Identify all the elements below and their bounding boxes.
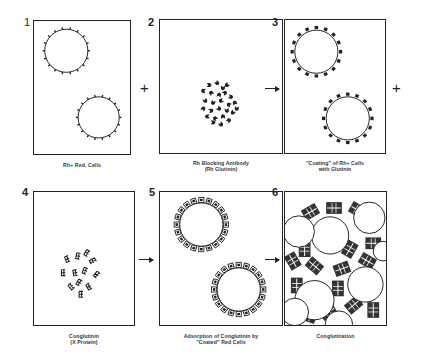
caption-panel-1: Rh+ Red, Cells xyxy=(33,162,131,168)
caption-line: Conglutination xyxy=(284,333,387,339)
panel-number-1: 1 xyxy=(24,16,30,28)
caption-panel-4: Conglutinin (X Protein) xyxy=(33,333,135,346)
arrow-right-icon xyxy=(139,259,153,260)
caption-line: (X Protein) xyxy=(33,339,135,345)
conglutination-lattice-illustration xyxy=(285,192,386,325)
caption-line: "Coated" Red Cells xyxy=(159,339,283,345)
caption-panel-5: Adsorption of Conglutinin by "Coated" Re… xyxy=(159,333,283,346)
caption-panel-2: Rh Blocking Antibody (Rh Glutinin) xyxy=(159,160,283,173)
panel-number-5: 5 xyxy=(149,186,155,198)
red-cells-illustration xyxy=(34,21,130,154)
adsorbed-cells-illustration xyxy=(160,192,282,325)
coated-cells-illustration xyxy=(285,20,385,153)
panel-number-2: 2 xyxy=(148,16,154,28)
plus-operator: + xyxy=(392,80,401,95)
panel-conglutination xyxy=(284,191,387,326)
caption-panel-3: "Coating" of Rh+ Cells with Glutinin xyxy=(284,160,386,173)
panel-conglutinin xyxy=(33,191,135,326)
panel-number-4: 4 xyxy=(22,186,28,198)
panel-blocking-antibody xyxy=(159,19,283,154)
antibody-cluster-illustration xyxy=(160,20,282,153)
caption-line: (Rh Glutinin) xyxy=(159,166,283,172)
arrow-right-icon xyxy=(265,88,279,89)
arrow-right-icon xyxy=(265,259,279,260)
conglutinin-molecules-illustration xyxy=(34,192,134,325)
plus-operator: + xyxy=(140,80,149,95)
caption-panel-6: Conglutination xyxy=(284,333,387,339)
panel-coating-cells xyxy=(284,19,386,154)
caption-line: Rh+ Red, Cells xyxy=(33,162,131,168)
panel-number-6: 6 xyxy=(272,186,278,198)
panel-rh-red-cells xyxy=(33,20,131,155)
caption-line: with Glutinin xyxy=(284,166,386,172)
panel-number-3: 3 xyxy=(272,16,278,28)
